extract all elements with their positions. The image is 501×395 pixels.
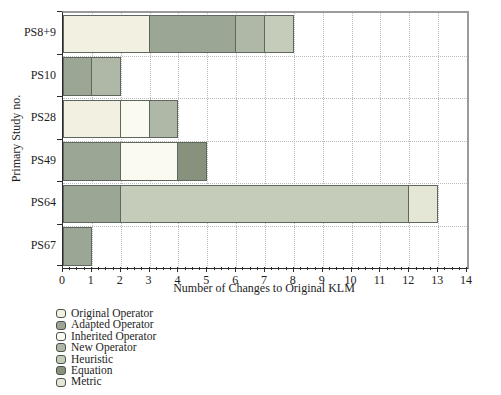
plot-area [62, 11, 469, 269]
bar-segment-ps49-inherited-operator [120, 142, 179, 181]
x-major-tick [351, 267, 352, 272]
x-minor-tick [199, 267, 200, 270]
bar-segment-ps28-inherited-operator [120, 100, 150, 139]
x-minor-tick [170, 267, 171, 270]
bar-segment-ps64-adapted-operator [63, 185, 121, 224]
x-minor-tick [300, 267, 301, 270]
x-minor-tick [444, 267, 445, 270]
bar-segment-ps8-9-new-operator [235, 15, 265, 54]
category-label-ps49: PS49 [0, 153, 56, 168]
x-major-tick [206, 267, 207, 272]
x-minor-tick [358, 267, 359, 270]
x-major-tick [466, 267, 467, 272]
bar-segment-ps67-adapted-operator [63, 227, 92, 266]
x-minor-tick [242, 267, 243, 270]
x-major-tick [235, 267, 236, 272]
x-minor-tick [84, 267, 85, 270]
x-minor-tick [459, 267, 460, 270]
x-minor-tick [192, 267, 193, 270]
bar-segment-ps10-new-operator [91, 57, 121, 96]
x-minor-tick [307, 267, 308, 270]
horizontal-gridline [63, 226, 467, 227]
category-label-ps28: PS28 [0, 110, 56, 125]
bar-segment-ps8-9-adapted-operator [149, 15, 237, 54]
x-minor-tick [430, 267, 431, 270]
bar-segment-ps10-adapted-operator [63, 57, 92, 96]
y-axis-tick [57, 139, 62, 140]
bar-segment-ps28-original-operator [63, 100, 121, 139]
legend-swatch-inherited-operator [56, 332, 66, 341]
x-major-tick [322, 267, 323, 272]
x-axis-label: Number of Changes to Original KLM [62, 281, 466, 296]
bar-segment-ps8-9-heuristic [264, 15, 294, 54]
x-minor-tick [76, 267, 77, 270]
x-minor-tick [134, 267, 135, 270]
y-axis-tick [57, 96, 62, 97]
category-label-ps67: PS67 [0, 238, 56, 253]
x-minor-tick [185, 267, 186, 270]
y-axis-tick [57, 265, 62, 266]
legend-swatch-original-operator [56, 309, 66, 318]
x-minor-tick [365, 267, 366, 270]
legend-label-new-operator: New Operator [71, 342, 136, 354]
x-major-tick [149, 267, 150, 272]
bar-segment-ps8-9-original-operator [63, 15, 150, 54]
bar-segment-ps49-equation [177, 142, 207, 181]
x-minor-tick [113, 267, 114, 270]
x-major-tick [177, 267, 178, 272]
x-minor-tick [250, 267, 251, 270]
x-major-tick [62, 267, 63, 272]
x-minor-tick [329, 267, 330, 270]
x-minor-tick [387, 267, 388, 270]
x-major-tick [379, 267, 380, 272]
x-minor-tick [69, 267, 70, 270]
legend-swatch-metric [56, 378, 66, 387]
x-minor-tick [141, 267, 142, 270]
x-major-tick [264, 267, 265, 272]
x-minor-tick [156, 267, 157, 270]
x-major-tick [120, 267, 121, 272]
x-minor-tick [163, 267, 164, 270]
category-label-ps10: PS10 [0, 68, 56, 83]
legend-swatch-heuristic [56, 355, 66, 364]
y-axis-tick [57, 11, 62, 12]
x-minor-tick [221, 267, 222, 270]
x-minor-tick [452, 267, 453, 270]
x-minor-tick [315, 267, 316, 270]
x-minor-tick [127, 267, 128, 270]
x-minor-tick [423, 267, 424, 270]
x-minor-tick [416, 267, 417, 270]
bar-segment-ps64-metric [408, 185, 438, 224]
x-minor-tick [401, 267, 402, 270]
x-minor-tick [343, 267, 344, 270]
legend-swatch-equation [56, 366, 66, 375]
y-axis-tick [57, 224, 62, 225]
category-label-ps64: PS64 [0, 195, 56, 210]
y-axis-tick [57, 181, 62, 182]
x-major-tick [293, 267, 294, 272]
x-major-tick [437, 267, 438, 272]
x-minor-tick [228, 267, 229, 270]
x-major-tick [408, 267, 409, 272]
legend-label-metric: Metric [71, 376, 102, 388]
legend-swatch-adapted-operator [56, 321, 66, 330]
x-minor-tick [336, 267, 337, 270]
legend: Original OperatorAdapted OperatorInherit… [56, 308, 156, 388]
x-minor-tick [105, 267, 106, 270]
x-minor-tick [271, 267, 272, 270]
legend-swatch-new-operator [56, 343, 66, 352]
legend-item-new-operator: New Operator [56, 342, 156, 353]
legend-item-metric: Metric [56, 376, 156, 387]
x-minor-tick [257, 267, 258, 270]
x-minor-tick [372, 267, 373, 270]
category-label-ps8-9: PS8+9 [0, 25, 56, 40]
y-axis-tick [57, 54, 62, 55]
klm-changes-stacked-bar-chart: Primary Study no. PS8+9PS10PS28PS49PS64P… [0, 0, 501, 395]
bar-segment-ps28-new-operator [149, 100, 179, 139]
horizontal-gridline [63, 56, 467, 57]
bar-segment-ps49-adapted-operator [63, 142, 121, 181]
x-minor-tick [394, 267, 395, 270]
x-minor-tick [214, 267, 215, 270]
x-minor-tick [98, 267, 99, 270]
x-major-tick [91, 267, 92, 272]
